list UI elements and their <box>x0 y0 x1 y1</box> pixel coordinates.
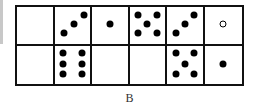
grid-cell-r1-c1 <box>55 46 93 85</box>
grid-cell-r1-c4 <box>167 46 205 85</box>
grid-cell-r1-c0 <box>17 46 55 85</box>
grid-cell-r0-c5 <box>205 7 243 46</box>
grid-cell-r0-c2 <box>92 7 130 46</box>
dot-icon <box>172 29 179 36</box>
grid-cell-r0-c3 <box>130 7 168 46</box>
dot-icon <box>153 29 160 36</box>
grid-cell-r0-c1 <box>55 7 93 46</box>
grid-cell-r1-c3 <box>130 46 168 85</box>
dot-icon <box>78 70 85 77</box>
dot-icon <box>60 70 67 77</box>
dot-icon <box>80 12 87 19</box>
grid-cell-r0-c4 <box>167 7 205 46</box>
dice-grid <box>15 5 244 86</box>
dot-icon <box>191 70 198 77</box>
dot-icon <box>135 12 142 19</box>
dot-icon <box>220 60 227 67</box>
dot-icon <box>181 60 188 67</box>
hollow-dot-icon <box>220 21 227 28</box>
dot-icon <box>78 60 85 67</box>
grid-cell-r1-c5 <box>205 46 243 85</box>
dot-icon <box>60 60 67 67</box>
dot-icon <box>106 21 113 28</box>
dot-icon <box>60 50 67 57</box>
dot-icon <box>191 50 198 57</box>
figure-label: B <box>0 91 257 106</box>
dot-icon <box>71 21 78 28</box>
grid-cell-r1-c2 <box>92 46 130 85</box>
left-edge-mark <box>0 0 3 44</box>
dot-icon <box>144 21 151 28</box>
grid-cell-r0-c0 <box>17 7 55 46</box>
dot-icon <box>181 21 188 28</box>
dot-icon <box>172 50 179 57</box>
dot-icon <box>153 12 160 19</box>
dot-icon <box>172 70 179 77</box>
dot-icon <box>78 50 85 57</box>
dot-icon <box>135 29 142 36</box>
dot-icon <box>61 29 68 36</box>
dot-icon <box>191 12 198 19</box>
